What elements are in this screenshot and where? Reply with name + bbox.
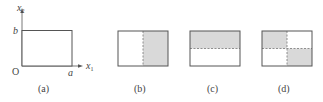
width-label-a: a xyxy=(68,67,73,78)
x2-axis-label: x2 xyxy=(16,2,24,14)
shaded-region-top-left xyxy=(262,31,287,49)
shaded-region-bottom-right xyxy=(287,49,312,67)
panel-b: (b) xyxy=(118,31,168,95)
caption-a: (a) xyxy=(38,83,49,95)
panel-a: x2 b O a x1 (a) xyxy=(12,2,93,95)
x1-axis-label: x1 xyxy=(85,60,93,72)
panel-d: (d) xyxy=(262,31,312,95)
caption-b: (b) xyxy=(134,83,146,95)
rectangle-a xyxy=(22,31,72,67)
shaded-region-top xyxy=(190,31,240,49)
x1-axis-arrowhead-icon xyxy=(78,64,83,67)
height-label-b: b xyxy=(13,25,18,36)
caption-d: (d) xyxy=(278,83,290,95)
panel-c: (c) xyxy=(190,31,240,95)
rectangle-partition-figure: x2 b O a x1 (a) (b) (c) (d) xyxy=(0,0,323,102)
origin-label: O xyxy=(12,66,19,77)
shaded-region-right xyxy=(143,31,168,66)
caption-c: (c) xyxy=(207,83,218,95)
